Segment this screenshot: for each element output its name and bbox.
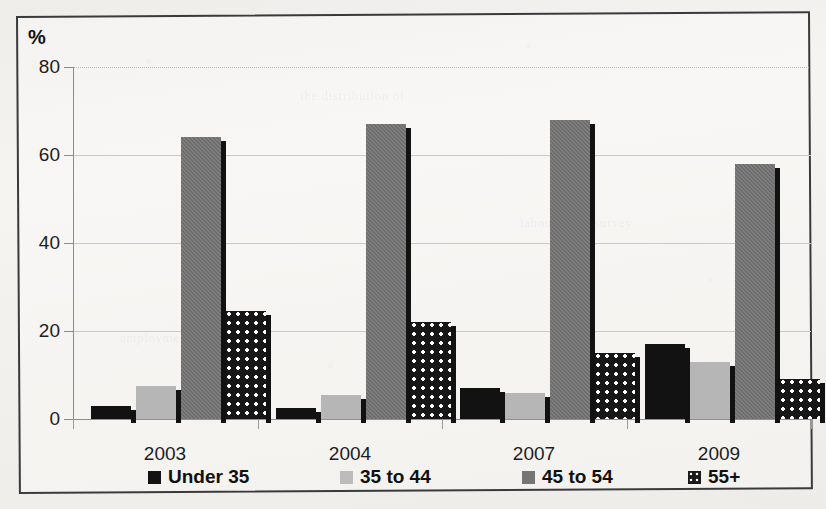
bar-fill	[690, 362, 730, 419]
y-tick-label-40: 40	[14, 232, 60, 254]
bar-2009-under-35	[645, 344, 685, 419]
bar-fill	[321, 395, 361, 419]
light-gray-square-icon	[340, 471, 353, 484]
x-axis-label-2004: 2004	[308, 443, 392, 465]
y-tick-mark-0	[64, 419, 73, 420]
dotted-square-icon	[688, 471, 701, 484]
bar-2009-45-to-54	[735, 164, 775, 419]
bar-fill	[505, 393, 545, 419]
bar-group-2004	[258, 0, 442, 419]
bar-group-2007	[442, 0, 627, 419]
y-tick-mark-80	[64, 67, 73, 68]
bar-fill	[780, 379, 820, 419]
bar-2003-35-to-44	[136, 386, 176, 419]
x-axis-label-2003: 2003	[123, 443, 207, 465]
bar-2009-35-to-44	[690, 362, 730, 419]
legend-label-45-to-54: 45 to 54	[542, 466, 613, 488]
x-tick-mark-2	[442, 419, 443, 429]
y-tick-mark-20	[64, 331, 73, 332]
legend-item-under-35[interactable]: Under 35	[148, 466, 249, 488]
bar-shadow	[820, 383, 825, 423]
x-tick-mark-1	[258, 419, 259, 429]
y-tick-label-80: 80	[14, 56, 60, 78]
black-square-icon	[148, 471, 161, 484]
legend-item-55-plus[interactable]: 55+	[688, 466, 740, 488]
bar-fill	[91, 406, 131, 419]
bar-2007-35-to-44	[505, 393, 545, 419]
bar-2007-45-to-54	[550, 120, 590, 419]
y-axis-unit-label: %	[28, 26, 46, 49]
y-tick-mark-40	[64, 243, 73, 244]
legend-label-35-to-44: 35 to 44	[360, 466, 431, 488]
bar-2003-under-35	[91, 406, 131, 419]
bar-fill	[645, 344, 685, 419]
x-tick-mark-4	[811, 419, 812, 429]
bar-fill	[136, 386, 176, 419]
bar-2004-35-to-44	[321, 395, 361, 419]
y-tick-mark-60	[64, 155, 73, 156]
legend-label-55-plus: 55+	[708, 466, 740, 488]
bar-2004-45-to-54	[366, 124, 406, 419]
bar-2004-under-35	[276, 408, 316, 419]
legend-item-35-to-44[interactable]: 35 to 44	[340, 466, 431, 488]
chart-legend: Under 35 35 to 44 45 to 54 55+	[0, 466, 826, 496]
x-tick-mark-0	[73, 419, 74, 429]
x-axis-label-2009: 2009	[677, 443, 761, 465]
dark-gray-square-icon	[522, 471, 535, 484]
bar-chart: % 80 60 40 20 0 2003	[0, 0, 826, 509]
bar-fill	[366, 124, 406, 419]
bar-fill	[181, 137, 221, 419]
bar-group-2009	[627, 0, 811, 419]
legend-item-45-to-54[interactable]: 45 to 54	[522, 466, 613, 488]
y-tick-label-20: 20	[14, 320, 60, 342]
bar-fill	[735, 164, 775, 419]
legend-label-under-35: Under 35	[168, 466, 249, 488]
x-tick-mark-3	[627, 419, 628, 429]
bar-2009-55-plus	[780, 379, 820, 419]
bar-2007-under-35	[460, 388, 500, 419]
x-axis-label-2007: 2007	[492, 443, 576, 465]
bar-2003-45-to-54	[181, 137, 221, 419]
bar-fill	[276, 408, 316, 419]
y-tick-label-60: 60	[14, 144, 60, 166]
y-tick-label-0: 0	[14, 408, 60, 430]
bar-group-2003	[73, 0, 258, 419]
bar-fill	[550, 120, 590, 419]
bar-fill	[460, 388, 500, 419]
